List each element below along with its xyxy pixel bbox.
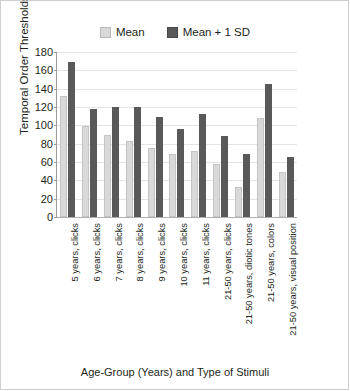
bar-mean-plus-sd[interactable]: [199, 114, 206, 217]
y-tick-label: 20: [41, 193, 53, 204]
bar-group: [144, 52, 166, 217]
x-tick-label-cell: 21-50 years, visual position: [275, 219, 297, 354]
bar-mean[interactable]: [191, 151, 198, 217]
y-tick-label: 80: [41, 138, 53, 149]
bar-group: [122, 52, 144, 217]
sd-swatch-icon: [167, 27, 178, 38]
y-tick-mark: [54, 217, 57, 218]
bar-mean-plus-sd[interactable]: [221, 136, 228, 217]
bar-mean-plus-sd[interactable]: [287, 157, 294, 218]
y-tick-label: 60: [41, 157, 53, 168]
y-tick-label: 120: [35, 102, 53, 113]
bar-group: [232, 52, 254, 217]
y-tick-label: 180: [35, 47, 53, 58]
bar-group: [210, 52, 232, 217]
bar-mean-plus-sd[interactable]: [90, 109, 97, 217]
bar-mean[interactable]: [126, 141, 133, 217]
x-tick-label-cell: 6 years, clicks: [79, 219, 101, 354]
bar-mean[interactable]: [169, 154, 176, 217]
bar-mean-plus-sd[interactable]: [134, 107, 141, 217]
legend-label-mean-plus-sd: Mean + 1 SD: [183, 26, 250, 38]
bar-group: [166, 52, 188, 217]
legend-label-mean: Mean: [116, 26, 145, 38]
bar-mean[interactable]: [104, 135, 111, 218]
mean-swatch-icon: [100, 27, 111, 38]
y-tick-label: 100: [35, 120, 53, 131]
bar-group: [79, 52, 101, 217]
bar-group: [188, 52, 210, 217]
x-tick-label-cell: 21-50 years, diotic tones: [232, 219, 254, 354]
bar-mean[interactable]: [213, 164, 220, 217]
x-axis-tick-labels: 5 years, clicks6 years, clicks7 years, c…: [57, 219, 297, 354]
x-tick-label-cell: 11 years, clicks: [188, 219, 210, 354]
x-tick-label: 21-50 years, visual position: [289, 223, 298, 336]
x-axis-title: Age-Group (Years) and Type of Stimuli: [0, 366, 350, 378]
gridline: [57, 217, 297, 218]
y-tick-label: 0: [47, 212, 53, 223]
bar-mean[interactable]: [82, 126, 89, 217]
plot-area: 020406080100120140160180: [57, 52, 297, 217]
y-tick-label: 160: [35, 65, 53, 76]
bar-group: [253, 52, 275, 217]
bar-groups: [57, 52, 297, 217]
x-tick-label-cell: 7 years, clicks: [101, 219, 123, 354]
bar-group: [275, 52, 297, 217]
y-tick-label: 140: [35, 83, 53, 94]
bar-mean[interactable]: [148, 148, 155, 217]
bar-mean-plus-sd[interactable]: [177, 129, 184, 217]
bar-mean-plus-sd[interactable]: [265, 84, 272, 217]
bar-mean[interactable]: [279, 172, 286, 217]
bar-mean[interactable]: [60, 96, 67, 217]
bar-mean-plus-sd[interactable]: [68, 62, 75, 217]
legend-item-mean[interactable]: Mean: [100, 26, 145, 38]
bar-mean-plus-sd[interactable]: [243, 154, 250, 217]
x-tick-label-cell: 5 years, clicks: [57, 219, 79, 354]
bar-mean-plus-sd[interactable]: [112, 107, 119, 217]
x-tick-label-cell: 8 years, clicks: [122, 219, 144, 354]
x-tick-label-cell: 10 years, clicks: [166, 219, 188, 354]
chart-legend: Mean Mean + 1 SD: [0, 26, 350, 38]
bar-group: [57, 52, 79, 217]
y-tick-label: 40: [41, 175, 53, 186]
bar-group: [101, 52, 123, 217]
x-tick-label-cell: 21-50 years, colors: [253, 219, 275, 354]
bar-mean[interactable]: [235, 187, 242, 217]
x-tick-label-cell: 9 years, clicks: [144, 219, 166, 354]
x-tick-label-cell: 21-50 years, clicks: [210, 219, 232, 354]
legend-item-mean-plus-sd[interactable]: Mean + 1 SD: [167, 26, 250, 38]
bar-mean-plus-sd[interactable]: [156, 117, 163, 217]
bar-mean[interactable]: [257, 118, 264, 217]
